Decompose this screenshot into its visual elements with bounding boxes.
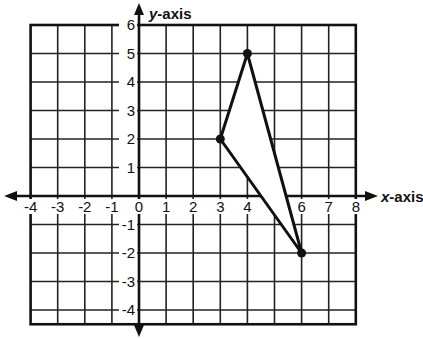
grid-lines (31, 25, 356, 324)
x-axis-label: x-axis (380, 188, 423, 205)
y-axis-down-arrow-icon (134, 325, 144, 337)
triangle (220, 54, 301, 254)
y-tick-label: 1 (127, 159, 135, 176)
y-tick-label: 4 (127, 73, 135, 90)
y-tick-label: -2 (122, 244, 135, 261)
x-axis-right-arrow-icon (365, 191, 378, 201)
x-tick-label: -3 (51, 198, 64, 215)
vertex-point (297, 249, 306, 258)
y-tick-label: -3 (122, 273, 135, 290)
vertex-point (216, 135, 225, 144)
x-tick-label: 2 (189, 198, 197, 215)
x-tick-label: 0 (135, 198, 143, 215)
y-tick-label: 2 (127, 130, 135, 147)
x-tick-label: 7 (325, 198, 333, 215)
y-axis-label: y-axis (148, 5, 192, 22)
y-tick-label: 6 (127, 16, 135, 33)
x-tick-label: -1 (105, 198, 118, 215)
x-tick-label: 1 (162, 198, 170, 215)
x-tick-label: -2 (78, 198, 91, 215)
vertex-point (243, 49, 252, 58)
y-tick-label: 3 (127, 102, 135, 119)
coordinate-plane: -4-3-2-1012345678654321-1-2-3-4 y-axis x… (0, 0, 423, 339)
x-tick-label: 3 (216, 198, 224, 215)
x-tick-label: 8 (352, 198, 360, 215)
y-tick-label: -4 (122, 301, 135, 318)
x-tick-label: -4 (24, 198, 37, 215)
y-tick-label: -1 (122, 216, 135, 233)
x-tick-label: 4 (243, 198, 251, 215)
x-axis-left-arrow-icon (4, 191, 17, 201)
x-tick-label: 6 (297, 198, 305, 215)
y-tick-label: 5 (127, 45, 135, 62)
y-axis-up-arrow-icon (134, 3, 144, 15)
